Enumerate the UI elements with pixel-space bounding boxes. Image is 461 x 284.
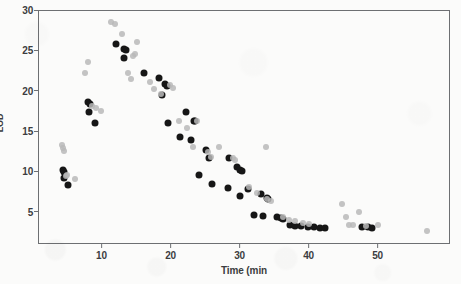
data-point-light <box>350 222 356 228</box>
data-point-dark <box>177 134 184 141</box>
data-point-light <box>190 144 196 150</box>
data-point-light <box>130 53 136 59</box>
data-point-dark <box>322 224 329 231</box>
data-point-dark <box>141 69 148 76</box>
y-axis-label: LOD <box>0 114 5 133</box>
data-point-light <box>194 118 200 124</box>
x-tick-label: 30 <box>234 244 245 261</box>
data-point-dark <box>238 168 245 175</box>
data-point-light <box>128 76 134 82</box>
data-point-light <box>184 125 190 131</box>
data-point-light <box>339 201 345 207</box>
y-tick-label: 25 <box>22 45 38 56</box>
y-tick-label: 30 <box>22 5 38 16</box>
plot-area: 51015202530 1020304050 <box>38 10 450 244</box>
x-tick-label: 40 <box>303 244 314 261</box>
data-point-dark <box>183 108 190 115</box>
scatter-plot-figure: 51015202530 1020304050 Time (min LOD <box>0 0 461 284</box>
y-tick-label: 20 <box>22 85 38 96</box>
data-point-light <box>170 85 176 91</box>
data-point-light <box>246 184 252 190</box>
data-point-dark <box>164 119 171 126</box>
x-tick-label: 50 <box>372 244 383 261</box>
data-point-light <box>268 198 274 204</box>
data-point-light <box>158 91 164 97</box>
x-tick-label: 10 <box>96 244 107 261</box>
data-point-dark <box>259 212 266 219</box>
data-point-dark <box>122 46 129 53</box>
data-point-light <box>119 31 125 37</box>
data-point-light <box>208 154 214 160</box>
data-point-light <box>343 214 349 220</box>
data-point-light <box>98 108 104 114</box>
data-point-light <box>85 59 91 65</box>
data-point-light <box>134 39 140 45</box>
data-point-dark <box>236 193 243 200</box>
data-point-light <box>254 190 260 196</box>
x-axis-label: Time (min <box>38 265 450 276</box>
data-point-dark <box>65 182 72 189</box>
data-point-light <box>292 218 298 224</box>
y-tick-label: 15 <box>22 126 38 137</box>
data-point-light <box>263 144 269 150</box>
data-point-light <box>286 217 292 223</box>
data-point-light <box>82 70 88 76</box>
data-point-light <box>112 21 118 27</box>
x-tick-label: 20 <box>165 244 176 261</box>
data-point-light <box>232 157 238 163</box>
data-point-dark <box>251 211 258 218</box>
y-tick-label: 5 <box>28 206 38 217</box>
data-point-light <box>61 148 67 154</box>
data-point-light <box>151 86 157 92</box>
data-point-light <box>363 223 369 229</box>
data-point-dark <box>120 55 127 62</box>
data-point-dark <box>112 40 119 47</box>
data-point-dark <box>195 171 202 178</box>
data-point-dark <box>92 119 99 126</box>
y-tick-label: 10 <box>22 166 38 177</box>
data-point-light <box>147 79 153 85</box>
data-point-dark <box>155 74 162 81</box>
data-point-light <box>424 228 430 234</box>
data-point-dark <box>86 109 93 116</box>
data-point-dark <box>208 181 215 188</box>
data-point-light <box>356 209 362 215</box>
data-point-light <box>216 144 222 150</box>
data-point-dark <box>188 136 195 143</box>
data-point-light <box>63 173 69 179</box>
data-point-dark <box>224 185 231 192</box>
data-point-light <box>306 221 312 227</box>
data-point-light <box>176 118 182 124</box>
data-point-light <box>375 222 381 228</box>
data-point-light <box>72 176 78 182</box>
